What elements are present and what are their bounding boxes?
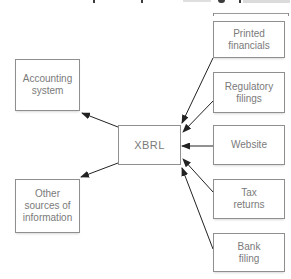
arrow-regulatory-filings-to-xbrl: [183, 101, 213, 132]
node-other-sources-of-information: Other sources of information: [15, 179, 80, 233]
arrow-bank-filing-to-xbrl: [182, 168, 213, 249]
node-bank-filing: Bank filing: [213, 233, 285, 272]
title-descender-fragment: [141, 0, 143, 3]
node-printed-financials: Printed financials: [213, 21, 285, 58]
cropped-rule-line: [213, 13, 289, 14]
arrow-printed-financials-to-xbrl: [182, 58, 213, 123]
arrow-xbrl-to-accounting-system: [82, 113, 118, 127]
node-tax-returns: Tax returns: [213, 179, 285, 219]
node-website: Website: [213, 125, 285, 165]
arrow-xbrl-to-other-sources: [81, 163, 118, 177]
node-regulatory-filings: Regulatory filings: [213, 72, 285, 113]
arrow-tax-returns-to-xbrl: [183, 159, 213, 192]
title-descender-fragment: [218, 0, 225, 3]
title-descender-fragment: [93, 0, 95, 3]
title-descender-fragment: [239, 0, 241, 3]
xbrl-flow-diagram: Accounting system Other sources of infor…: [0, 0, 291, 279]
node-accounting-system: Accounting system: [15, 59, 80, 111]
title-smudge: [243, 0, 290, 3]
title-smudge: [183, 0, 211, 2]
node-xbrl: XBRL: [118, 125, 181, 165]
